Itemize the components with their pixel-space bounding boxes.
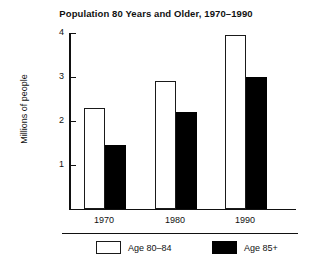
legend-label-age-80-84: Age 80–84 (128, 243, 172, 253)
bar-1980-series-1 (155, 81, 176, 209)
x-tick-label-1990: 1990 (225, 215, 265, 225)
legend-swatch-icon-dark (212, 241, 237, 254)
x-tick-label-1970: 1970 (84, 215, 124, 225)
legend-entry-age-80-84: Age 80–84 (96, 241, 172, 254)
chart-figure: Population 80 Years and Older, 1970–1990… (0, 0, 312, 265)
bar-1990-series-2 (246, 77, 267, 209)
chart-title: Population 80 Years and Older, 1970–1990 (0, 8, 312, 19)
bar-1970-series-2 (105, 145, 126, 209)
legend-entry-age-85-plus: Age 85+ (212, 241, 278, 254)
bar-1990-series-1 (225, 35, 246, 209)
x-tick-label-1980: 1980 (155, 215, 195, 225)
legend-label-age-85-plus: Age 85+ (244, 243, 278, 253)
y-tick-label-1: 1 (46, 160, 64, 169)
bar-1980-series-2 (176, 112, 197, 209)
y-tick-label-2: 2 (46, 116, 64, 125)
bar-1970-series-1 (84, 108, 105, 209)
legend-divider (62, 233, 298, 234)
y-tick-label-4: 4 (46, 28, 64, 37)
chart-legend: Age 80–84 Age 85+ (62, 239, 302, 261)
legend-swatch-icon-light (96, 241, 121, 254)
bars-layer (69, 33, 296, 209)
y-axis-title: Millions of people (19, 49, 29, 169)
y-tick-label-3: 3 (46, 72, 64, 81)
